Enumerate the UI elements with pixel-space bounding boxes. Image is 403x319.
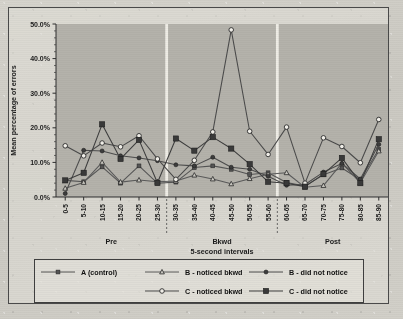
legend-item-c-noticed-bkwd[interactable]: C - noticed bkwd (145, 287, 243, 296)
data-point (137, 156, 141, 160)
x-tick-label: 30-35 (172, 204, 179, 221)
data-point (340, 166, 344, 170)
data-point (339, 155, 344, 160)
legend-label: A (control) (81, 268, 118, 277)
x-tick-label: 70-75 (320, 204, 327, 221)
y-tick-label: 30.0% (30, 90, 51, 97)
data-point (229, 28, 234, 33)
data-point (340, 144, 345, 149)
x-tick-label: 20-25 (135, 204, 142, 221)
legend-item-b-did-not-notice[interactable]: B - did not notice (249, 268, 348, 277)
x-tick-label: 35-40 (191, 204, 198, 221)
legend-label: B - did not notice (289, 268, 348, 277)
phase-label-pre: Pre (106, 237, 118, 246)
data-point (247, 162, 252, 167)
x-tick-label: 85-90 (375, 204, 382, 221)
data-point (174, 163, 178, 167)
x-tick-label: 45-50 (228, 204, 235, 221)
y-tick-label: 50.0% (30, 21, 51, 28)
legend-canvas: A (control)B - noticed bkwdB - did not n… (35, 260, 363, 302)
legend-label: B - noticed bkwd (185, 268, 243, 277)
x-tick-label: 5-10 (80, 204, 87, 218)
legend-item-b-noticed-bkwd[interactable]: B - noticed bkwd (145, 268, 243, 277)
data-point (321, 172, 326, 177)
data-point (210, 135, 215, 140)
data-point (81, 154, 86, 159)
data-point (229, 165, 233, 169)
y-axis-title: Mean percentage of errors (9, 65, 18, 155)
data-point (118, 156, 123, 161)
data-point (137, 164, 141, 168)
data-point (192, 158, 197, 163)
x-tick-label: 25-30 (154, 204, 161, 221)
chart-legend: A (control)B - noticed bkwdB - did not n… (34, 259, 364, 303)
legend-marker (56, 270, 60, 274)
data-point (82, 148, 86, 152)
phase-separator-post (276, 24, 279, 197)
y-tick-label: 40.0% (30, 55, 51, 62)
x-tick-label: 80-85 (357, 204, 364, 221)
x-axis-title: 5-second intervals (190, 247, 253, 256)
legend-marker (160, 289, 165, 294)
data-point (100, 149, 104, 153)
legend-marker (264, 270, 268, 274)
legend-item-c-did-not-notice[interactable]: C - did not notice (249, 287, 348, 296)
data-point (100, 165, 104, 169)
phase-label-bkwd: Bkwd (212, 237, 231, 246)
data-point (284, 181, 289, 186)
x-tick-label: 50-55 (246, 204, 253, 221)
data-point (376, 117, 381, 122)
y-tick-label: 20.0% (30, 124, 51, 131)
data-point (63, 192, 67, 196)
data-point (100, 122, 105, 127)
data-point (302, 184, 307, 189)
data-point (340, 161, 344, 165)
y-tick-label: 0.0% (34, 194, 51, 201)
data-point (358, 160, 363, 165)
data-point (155, 157, 160, 162)
data-point (266, 152, 271, 157)
legend-item-a-control[interactable]: A (control) (41, 268, 118, 277)
legend-label: C - did not notice (289, 287, 348, 296)
data-point (63, 178, 68, 183)
data-point (100, 141, 105, 146)
data-point (248, 167, 252, 171)
data-point (358, 181, 363, 186)
legend-marker (263, 288, 268, 293)
data-point (321, 136, 326, 141)
data-point (118, 145, 123, 150)
legend-label: C - noticed bkwd (185, 287, 243, 296)
data-point (211, 155, 215, 159)
x-tick-label: 55-60 (265, 204, 272, 221)
data-point (266, 179, 271, 184)
x-tick-label: 75-80 (338, 204, 345, 221)
data-point (229, 146, 234, 151)
data-point (284, 125, 289, 130)
y-tick-label: 10.0% (30, 159, 51, 166)
data-point (376, 137, 381, 142)
phase-separator-bkwd (165, 24, 168, 197)
data-point (247, 129, 252, 134)
data-point (266, 174, 270, 178)
phase-label-post: Post (325, 237, 341, 246)
data-point (210, 130, 215, 135)
data-point (63, 143, 68, 148)
x-tick-label: 15-20 (117, 204, 124, 221)
data-point (192, 164, 196, 168)
plot-area-background (56, 24, 388, 197)
x-tick-label: 10-15 (99, 204, 106, 221)
data-point (174, 177, 179, 182)
data-point (192, 148, 197, 153)
data-point (155, 180, 160, 185)
x-tick-label: 40-45 (209, 204, 216, 221)
data-point (211, 164, 215, 168)
data-point (136, 137, 141, 142)
x-tick-label: 0-5 (62, 204, 69, 214)
x-tick-label: 65-70 (301, 204, 308, 221)
data-point (173, 136, 178, 141)
x-tick-label: 60-65 (283, 204, 290, 221)
data-point (81, 170, 86, 175)
